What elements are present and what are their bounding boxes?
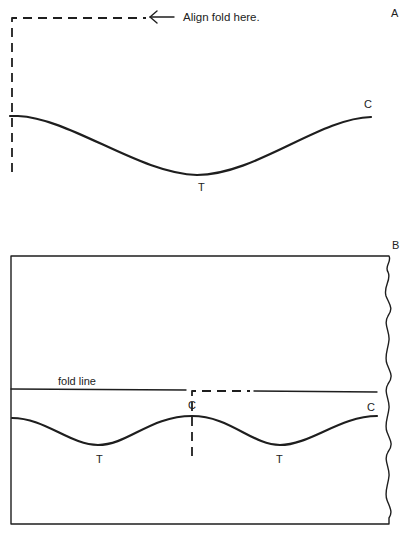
trough-label-a: T	[198, 181, 205, 193]
center-fold-guide-dashed	[192, 391, 250, 456]
fold-line-solid-right	[254, 391, 377, 392]
alignment-guide-dashed	[12, 18, 146, 172]
panel-b: B fold line C C T T	[11, 239, 399, 524]
fold-line-solid-left	[11, 389, 186, 390]
wave-fold-diagram: A Align fold here. C T B fold line C C T…	[0, 0, 405, 538]
wave-curve-a	[10, 116, 371, 175]
panel-b-label: B	[392, 239, 399, 251]
panel-a: A Align fold here. C T	[10, 7, 399, 193]
trough-label-right: T	[276, 453, 283, 465]
panel-a-label: A	[391, 7, 399, 19]
align-fold-instruction: Align fold here.	[183, 11, 260, 23]
trough-label-left: T	[96, 453, 103, 465]
crest-label-a: C	[364, 98, 372, 110]
wave-curve-b	[12, 416, 377, 445]
arrow-left-icon	[150, 11, 174, 23]
crest-label-center: C	[188, 399, 196, 411]
crest-label-right: C	[367, 401, 375, 413]
fold-line-label: fold line	[58, 375, 96, 387]
